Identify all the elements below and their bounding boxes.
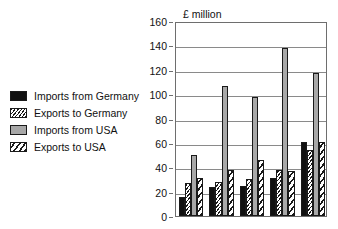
legend-label: Imports from USA xyxy=(34,124,117,136)
y-tick-mark xyxy=(169,71,173,72)
legend-item: Imports from Germany xyxy=(10,88,158,104)
y-tick-label: 80 xyxy=(155,114,167,126)
bar-group xyxy=(209,23,233,216)
legend-label: Imports from Germany xyxy=(34,90,139,102)
legend-label: Exports to USA xyxy=(34,141,106,153)
legend-item: Imports from USA xyxy=(10,122,158,138)
bar xyxy=(258,160,264,216)
y-tick-mark xyxy=(169,193,173,194)
bar xyxy=(228,170,234,216)
y-tick-label: 120 xyxy=(149,65,167,77)
y-tick-label: 60 xyxy=(155,138,167,150)
chart-container: Imports from Germany Exports to Germany … xyxy=(0,0,338,229)
y-tick-mark xyxy=(169,168,173,169)
y-tick-mark xyxy=(169,120,173,121)
legend-swatch-exports-to-usa xyxy=(10,142,27,152)
bars-layer xyxy=(176,23,326,216)
legend-swatch-imports-from-usa xyxy=(10,125,27,135)
y-tick-mark xyxy=(169,217,173,218)
y-axis-ticks: 020406080100120140160 xyxy=(147,22,173,217)
chart-legend: Imports from Germany Exports to Germany … xyxy=(10,88,158,156)
y-tick-mark xyxy=(169,95,173,96)
bar-group xyxy=(270,23,294,216)
legend-swatch-imports-from-germany xyxy=(10,91,27,101)
y-axis-title: £ million xyxy=(183,8,222,20)
y-tick-label: 160 xyxy=(149,16,167,28)
bar-group xyxy=(179,23,203,216)
bar-group xyxy=(301,23,325,216)
y-tick-label: 0 xyxy=(161,211,167,223)
y-tick-label: 40 xyxy=(155,162,167,174)
legend-item: Exports to USA xyxy=(10,139,158,155)
y-tick-mark xyxy=(169,144,173,145)
bar xyxy=(319,142,325,216)
bar xyxy=(288,171,294,216)
y-tick-label: 100 xyxy=(149,89,167,101)
bar-group xyxy=(240,23,264,216)
plot-area xyxy=(175,22,327,217)
legend-swatch-exports-to-germany xyxy=(10,108,27,118)
y-tick-label: 140 xyxy=(149,40,167,52)
y-tick-mark xyxy=(169,46,173,47)
legend-label: Exports to Germany xyxy=(34,107,127,119)
y-tick-label: 20 xyxy=(155,187,167,199)
y-tick-mark xyxy=(169,22,173,23)
legend-item: Exports to Germany xyxy=(10,105,158,121)
bar xyxy=(197,178,203,216)
